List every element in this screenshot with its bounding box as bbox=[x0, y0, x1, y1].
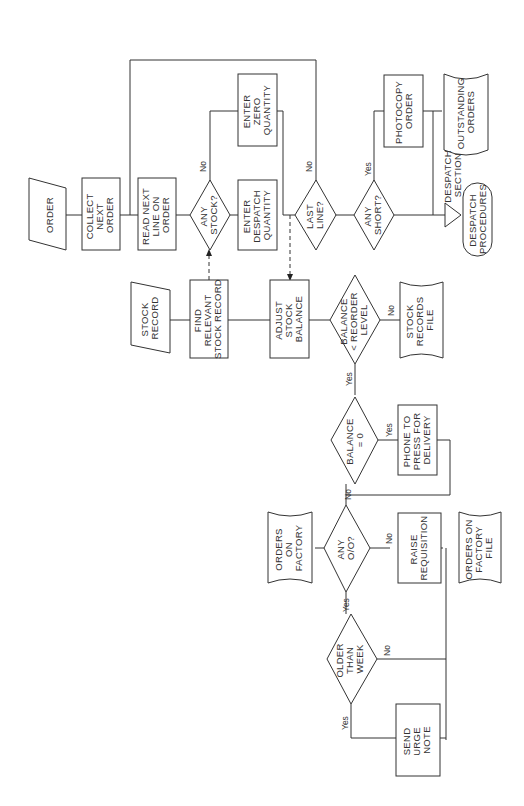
photocopy-order-node: PHOTOCOPY ORDER bbox=[384, 75, 423, 147]
phone-to-press-node: PHONE TO PRESS FOR DELIVERY bbox=[398, 405, 437, 475]
flowchart-canvas: ORDER COLLECT NEXT ORDER READ NEXT LINE … bbox=[0, 0, 524, 806]
stock-records-file: STOCK RECORDS FILE bbox=[400, 282, 443, 358]
svg-text:OLDER THAN WEEK: OLDER THAN WEEK bbox=[334, 640, 365, 677]
older-than-week-decision: OLDER THAN WEEK bbox=[327, 614, 377, 704]
svg-text:STOCK RECORD: STOCK RECORD bbox=[139, 297, 160, 340]
last-line-decision: LAST LINE? bbox=[295, 180, 336, 250]
any-short-yes-label: Yes bbox=[363, 162, 373, 176]
any-oo-no-label: No bbox=[384, 533, 394, 544]
raise-requisition-node: RAISE REQUISITION bbox=[398, 513, 441, 583]
outstanding-orders-file: OUTSTANDING ORDERS bbox=[444, 74, 488, 155]
older-than-week-no-label: No bbox=[382, 645, 392, 656]
connectors bbox=[66, 60, 450, 740]
balance-reorder-no-label: No bbox=[386, 305, 396, 316]
svg-text:DESPATCH PROCEDURES: DESPATCH PROCEDURES bbox=[467, 184, 488, 254]
order-node: ORDER bbox=[29, 178, 66, 250]
collect-next-order-node: COLLECT NEXT ORDER bbox=[82, 178, 120, 250]
last-line-no-label: No bbox=[304, 161, 314, 172]
svg-text:ORDER: ORDER bbox=[44, 197, 55, 233]
despatch-procedures-terminator: DESPATCH PROCEDURES bbox=[463, 183, 492, 256]
older-than-week-yes-label: Yes bbox=[340, 716, 350, 730]
balance-reorder-yes-label: Yes bbox=[344, 372, 354, 386]
read-next-line-node: READ NEXT LINE ON ORDER bbox=[138, 178, 176, 250]
balance-zero-yes-label: Yes bbox=[384, 423, 394, 437]
enter-despatch-quantity-node: ENTER DESPATCH QUANTITY bbox=[238, 180, 277, 250]
svg-text:ADJUST STOCK BALAN: ADJUST STOCK BALANCE bbox=[273, 296, 304, 342]
svg-text:PHONE TO PRESS FOR: PHONE TO PRESS FOR DELIVERY bbox=[401, 410, 432, 471]
send-urge-note-node: SEND URGE NOTE bbox=[396, 704, 440, 776]
adjust-stock-balance-node: ADJUST STOCK BALANCE bbox=[270, 280, 309, 358]
any-stock-decision: ANY STOCK? bbox=[190, 180, 230, 250]
orders-on-factory-file: ORDERS ON FACTORY bbox=[268, 512, 312, 583]
stock-record-node: STOCK RECORD bbox=[131, 282, 170, 353]
find-relevant-stock-record-node: FIND RELEVANT STOCK RECORD bbox=[190, 279, 228, 359]
svg-text:SEND URGE NOTE: SEND URGE NOTE bbox=[401, 724, 432, 756]
balance-zero-no-label: No bbox=[343, 489, 353, 500]
svg-text:LAST LINE?: LAST LINE? bbox=[304, 201, 325, 229]
any-oo-decision: ANY O/O? bbox=[324, 505, 370, 592]
any-oo-yes-label: Yes bbox=[341, 598, 351, 612]
orders-on-factory-file-2: ORDERS ON FACTORY FILE bbox=[459, 512, 501, 583]
any-stock-no-label: No bbox=[198, 161, 208, 172]
balance-lt-reorder-decision: BALANCE < REORDER LEVEL bbox=[330, 275, 380, 364]
enter-zero-quantity-node: ENTER ZERO QUANTITY bbox=[238, 74, 277, 146]
balance-eq-0-decision: BALANCE = 0 bbox=[331, 397, 378, 484]
svg-text:ANY O/O?: ANY O/O? bbox=[335, 536, 356, 560]
any-short-decision: ANY SHORT? bbox=[354, 180, 394, 250]
svg-text:DESPATCH SECTION: DESPATCH SECTION bbox=[442, 147, 463, 203]
despatch-section-offpage: DESPATCH SECTION bbox=[442, 147, 463, 227]
